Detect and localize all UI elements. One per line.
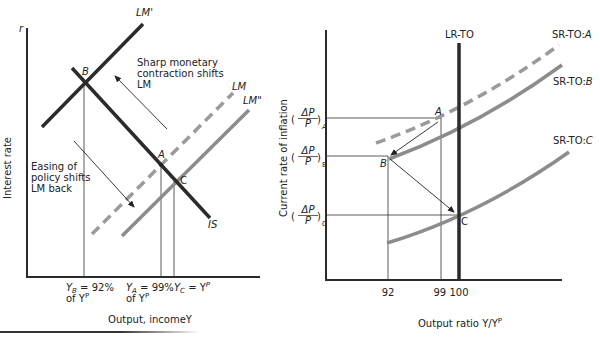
svg-text:(: ( bbox=[291, 114, 295, 125]
right-x-axis-label: Output ratio Y/YP bbox=[418, 317, 502, 329]
figure: r Interest rate Output, incomeY LM' LM L… bbox=[0, 0, 600, 340]
lm-prime-label: LM' bbox=[136, 7, 153, 18]
sr-to-c-label: SR-TO:C bbox=[553, 135, 593, 146]
lr-to-label: LR-TO bbox=[445, 29, 474, 40]
lm-label: LM bbox=[232, 81, 247, 92]
point-b-label-right: B bbox=[380, 158, 387, 169]
x-marker-ya-line2: of YP bbox=[126, 292, 149, 304]
point-a-marker bbox=[159, 163, 163, 167]
left-x-axis-label: Output, incomeY bbox=[108, 314, 193, 325]
svg-text:P: P bbox=[305, 118, 312, 129]
svg-text:(: ( bbox=[291, 152, 295, 163]
x-marker-yc: YC = YP bbox=[174, 281, 211, 295]
lm-double-prime-line bbox=[122, 110, 249, 236]
x-tick-92: 92 bbox=[382, 287, 395, 298]
y-tick-b: ( ΔP P ) B bbox=[291, 145, 327, 169]
contraction-annotation: Sharp monetary contraction shifts LM bbox=[137, 57, 227, 90]
b-to-c-arrow bbox=[390, 159, 454, 212]
right-y-axis-label: Current rate of inflation bbox=[278, 99, 289, 217]
bottom-rule bbox=[0, 331, 200, 333]
lm-prime-line bbox=[42, 24, 143, 127]
svg-text:): ) bbox=[317, 211, 321, 222]
y-tick-a: ( ΔP P ) A bbox=[291, 107, 327, 131]
point-a-label: A bbox=[157, 149, 165, 160]
svg-text:C: C bbox=[322, 220, 327, 228]
sr-to-b-label: SR-TO:B bbox=[553, 76, 593, 87]
y-tick-c: ( ΔP P ) C bbox=[291, 204, 327, 228]
point-b-label: B bbox=[82, 66, 89, 77]
svg-text:ΔP: ΔP bbox=[301, 107, 316, 118]
svg-text:ΔP: ΔP bbox=[301, 204, 316, 215]
svg-text:): ) bbox=[317, 152, 321, 163]
point-a-label-right: A bbox=[434, 106, 442, 117]
sr-to-a-curve bbox=[376, 45, 559, 143]
svg-text:(: ( bbox=[291, 211, 295, 222]
svg-text:ΔP: ΔP bbox=[301, 145, 316, 156]
point-c-label-right: C bbox=[461, 216, 468, 227]
sr-to-b-curve bbox=[389, 65, 562, 159]
x-tick-99-100: 99 100 bbox=[434, 287, 469, 298]
point-c-label: C bbox=[180, 175, 187, 186]
svg-text:A: A bbox=[321, 123, 327, 131]
is-label: IS bbox=[208, 219, 218, 230]
sr-to-a-label: SR-TO:A bbox=[552, 29, 592, 40]
svg-text:): ) bbox=[317, 114, 321, 125]
lm-double-prime-label: LM" bbox=[243, 95, 262, 106]
left-y-axis-label: Interest rate bbox=[2, 137, 13, 199]
is-lm-chart: r Interest rate Output, incomeY LM' LM L… bbox=[2, 7, 262, 325]
svg-text:P: P bbox=[305, 215, 312, 226]
sr-to-c-curve bbox=[387, 152, 569, 243]
tradeoff-chart: Current rate of inflation Output ratio Y… bbox=[278, 29, 593, 329]
svg-text:B: B bbox=[322, 161, 327, 169]
left-y-axis-symbol: r bbox=[19, 23, 24, 34]
x-marker-yb-line2: of YP bbox=[66, 292, 89, 304]
svg-text:P: P bbox=[305, 156, 312, 167]
is-line bbox=[72, 68, 210, 218]
